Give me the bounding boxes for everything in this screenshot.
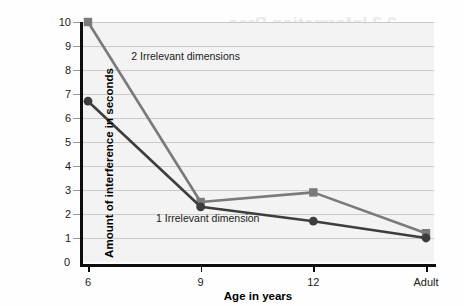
series-label-1: 2 Irrelevant dimensions: [131, 50, 240, 62]
series-label-2: 1 Irrelevant dimension: [156, 212, 259, 224]
y-tick-mark: [73, 94, 80, 95]
data-point-marker: [309, 217, 318, 226]
x-axis-title: Age in years: [80, 290, 436, 302]
y-tick-label: 5: [65, 136, 71, 148]
y-tick-label: 6: [65, 112, 71, 124]
data-point-marker: [84, 18, 92, 26]
x-tick-mark: [313, 264, 315, 272]
x-tick-mark: [426, 264, 428, 272]
y-tick-label: 3: [65, 184, 71, 196]
chart-figure: 2.3 Information Proc Remembering From Hu…: [0, 0, 464, 306]
x-tick-label: 6: [85, 276, 91, 288]
y-tick-mark: [73, 166, 80, 167]
y-tick-mark: [73, 214, 80, 215]
y-tick-label: 2: [65, 208, 71, 220]
y-tick-label: 4: [65, 160, 71, 172]
y-tick-label: 9: [65, 40, 71, 52]
y-tick-mark: [73, 22, 80, 23]
data-point-marker: [309, 188, 317, 196]
data-point-marker: [422, 234, 431, 243]
x-tick-label: 9: [198, 276, 204, 288]
y-tick-label: 7: [65, 88, 71, 100]
y-axis-zero-label: 0: [64, 256, 70, 268]
x-tick-label: 12: [307, 276, 319, 288]
y-tick-label: 8: [65, 64, 71, 76]
y-axis-title: Amount of interference in seconds: [103, 48, 115, 278]
y-axis-line: [80, 22, 83, 266]
data-point-marker: [196, 202, 205, 211]
x-tick-mark: [88, 264, 90, 272]
data-point-marker: [84, 97, 93, 106]
y-tick-mark: [73, 70, 80, 71]
plot-area: 12345678910 2 Irrelevant dimensions1 Irr…: [80, 22, 434, 262]
x-tick-label: Adult: [413, 276, 438, 288]
y-tick-label: 1: [65, 232, 71, 244]
y-tick-mark: [73, 142, 80, 143]
y-tick-label: 10: [59, 16, 71, 28]
y-tick-mark: [73, 118, 80, 119]
x-axis-line: [80, 264, 436, 267]
y-tick-mark: [73, 190, 80, 191]
x-tick-mark: [201, 264, 203, 272]
y-tick-mark: [73, 46, 80, 47]
y-tick-mark: [73, 238, 80, 239]
